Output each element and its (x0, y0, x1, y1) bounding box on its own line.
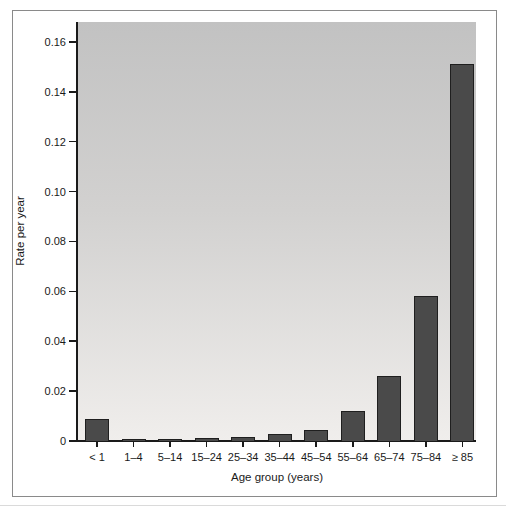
bar-4554 (304, 430, 328, 441)
y-axis-tick-label: 0.10 (26, 186, 66, 198)
y-axis-tick (69, 241, 76, 243)
y-axis-tick (69, 141, 76, 143)
y-axis-tick-label: 0.02 (26, 385, 66, 397)
x-axis-tick (206, 442, 208, 447)
y-axis-tick (69, 191, 76, 193)
bar-1524 (195, 438, 219, 441)
x-axis-tick (315, 442, 317, 447)
bar-85 (450, 64, 474, 441)
y-axis-tick-label: 0.08 (26, 235, 66, 247)
y-axis-tick-label: 0.04 (26, 335, 66, 347)
x-axis-tick (242, 442, 244, 447)
y-axis-tick-label: 0.16 (26, 36, 66, 48)
y-axis-tick (69, 291, 76, 293)
x-axis-title: Age group (years) (231, 471, 323, 483)
y-axis-tick (69, 390, 76, 392)
bar-3544 (268, 434, 292, 441)
y-axis-tick-label: 0.14 (26, 86, 66, 98)
x-axis-tick (279, 442, 281, 447)
y-axis-tick (69, 340, 76, 342)
y-axis-tick (69, 91, 76, 93)
x-axis-tick (389, 442, 391, 447)
y-axis-title: Rate per year (14, 196, 26, 266)
bar-1 (85, 419, 109, 441)
x-axis-tick-label: ≥ 85 (432, 451, 492, 463)
y-axis-tick-label: 0.12 (26, 136, 66, 148)
bar-6574 (377, 376, 401, 441)
bar-14 (122, 439, 146, 441)
bar-514 (158, 439, 182, 441)
x-axis-tick (96, 442, 98, 447)
x-axis-tick (352, 442, 354, 447)
y-axis-tick (69, 440, 76, 442)
bar-2534 (231, 437, 255, 441)
page-edge-artifact-line (0, 505, 506, 506)
y-axis-tick-label: 0.06 (26, 285, 66, 297)
figure-canvas: 00.020.040.060.080.100.120.140.16< 11–45… (0, 0, 506, 512)
y-axis-tick-label: 0 (26, 435, 66, 447)
x-axis-tick (169, 442, 171, 447)
x-axis-tick (462, 442, 464, 447)
x-axis-tick (425, 442, 427, 447)
x-axis-tick (133, 442, 135, 447)
bar-5564 (341, 411, 365, 441)
bar-7584 (414, 296, 438, 441)
y-axis-line (76, 22, 78, 442)
y-axis-tick (69, 41, 76, 43)
